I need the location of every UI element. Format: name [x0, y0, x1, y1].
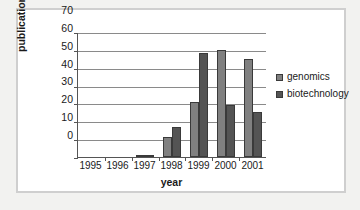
- legend-item-genomics: genomics: [276, 72, 360, 82]
- bar-group: [212, 33, 239, 157]
- x-axis-tick-label: 1999: [185, 161, 212, 175]
- bar-biotechnology-1998: [172, 127, 181, 157]
- y-axis-title: publications: [15, 0, 27, 52]
- bar-biotechnology-1999: [199, 53, 208, 157]
- bar-groups: [78, 33, 266, 157]
- x-axis-tick-label: 2000: [212, 161, 239, 175]
- chart-card: publications 706050403020100 19951996199…: [16, 8, 346, 193]
- y-axis-tick-label: 0: [51, 130, 73, 141]
- x-axis-title: year: [77, 176, 266, 188]
- y-axis-tick-label: 40: [51, 59, 73, 70]
- legend-swatch-biotechnology-icon: [276, 91, 283, 98]
- y-axis-tick-labels: 706050403020100: [49, 10, 73, 191]
- y-axis-tick-label: 60: [51, 23, 73, 34]
- bar-group: [78, 33, 105, 157]
- chart-page-background: publications 706050403020100 19951996199…: [0, 0, 360, 210]
- bar-biotechnology-2001: [253, 112, 262, 157]
- bar-genomics-1997: [136, 155, 145, 157]
- legend-item-biotechnology: biotechnology: [276, 89, 360, 99]
- y-axis-tick-label: 70: [51, 5, 73, 16]
- bar-genomics-1998: [163, 137, 172, 157]
- bar-biotechnology-1997: [145, 155, 154, 157]
- x-axis-tick-label: 1998: [158, 161, 185, 175]
- chart-legend: genomicsbiotechnology: [276, 72, 360, 106]
- legend-label: genomics: [287, 72, 330, 82]
- bar-biotechnology-2000: [226, 105, 235, 157]
- bar-group: [239, 33, 266, 157]
- x-axis-tick-label: 1997: [131, 161, 158, 175]
- y-axis-tick-label: 20: [51, 94, 73, 105]
- y-axis-tick-label: 50: [51, 41, 73, 52]
- y-axis-tick: [74, 158, 78, 159]
- x-axis-tick-labels: 1995199619971998199920002001: [77, 161, 266, 175]
- bar-genomics-2000: [217, 50, 226, 157]
- bar-group: [132, 33, 159, 157]
- x-axis-tick-label: 1996: [104, 161, 131, 175]
- y-axis-tick-label: 10: [51, 112, 73, 123]
- bar-group: [185, 33, 212, 157]
- bar-genomics-1999: [190, 102, 199, 157]
- x-axis-tick-label: 2001: [239, 161, 266, 175]
- bar-group: [105, 33, 132, 157]
- x-axis-tick-label: 1995: [77, 161, 104, 175]
- legend-swatch-genomics-icon: [276, 74, 283, 81]
- y-axis-tick-label: 30: [51, 76, 73, 87]
- plot-area: [77, 33, 266, 158]
- legend-label: biotechnology: [287, 89, 349, 99]
- bar-group: [159, 33, 186, 157]
- bar-genomics-2001: [244, 59, 253, 157]
